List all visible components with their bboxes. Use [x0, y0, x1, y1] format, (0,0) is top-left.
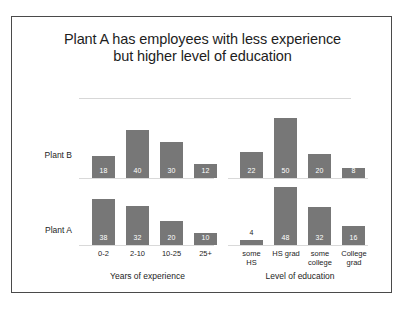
bar-plant-b-edu-college-grad: 8: [342, 168, 365, 178]
tick-label-edu-3: College grad: [336, 249, 372, 267]
tick-label-line-1: College: [341, 249, 366, 258]
row-label-plant-a: Plant A: [20, 225, 72, 235]
tick-label-edu-1: HS grad: [266, 249, 306, 258]
bar-value: 48: [274, 234, 297, 242]
tick-label-line-2: college: [308, 258, 332, 267]
bar-plant-a-exp-10-25: 20: [160, 221, 183, 245]
tick-label-exp-2: 10-25: [154, 249, 189, 258]
bar-value: 32: [126, 234, 149, 242]
bar-value: 8: [342, 167, 365, 175]
bar-plant-b-exp-0-2: 18: [92, 156, 115, 178]
row-label-plant-b: Plant B: [20, 150, 72, 160]
tick-label-line-1: some: [242, 249, 260, 258]
tick-label-line-1: 0-2: [98, 249, 109, 258]
bar-plant-b-edu-hs-grad: 50: [274, 118, 297, 178]
bar-value: 30: [160, 167, 183, 175]
bar-plant-a-edu-some-hs: 4: [240, 240, 263, 245]
bar-value: 20: [160, 234, 183, 242]
axis-title-experience: Years of experience: [70, 271, 225, 281]
axis-title-education: Level of education: [225, 271, 375, 281]
tick-label-line-1: some: [311, 249, 329, 258]
bar-value: 18: [92, 167, 115, 175]
tick-label-line-1: 2-10: [130, 249, 145, 258]
bar-plant-a-edu-some-college: 32: [308, 207, 331, 245]
bar-value: 22: [240, 167, 263, 175]
bar-value: 32: [308, 234, 331, 242]
tick-label-line-2: grad: [346, 258, 361, 267]
bar-plant-a-edu-hs-grad: 48: [274, 187, 297, 245]
bar-value: 16: [342, 234, 365, 242]
baseline-plant-b-education: [228, 178, 368, 179]
bar-plant-a-exp-25plus: 10: [194, 233, 217, 245]
baseline-plant-a-education: [228, 245, 368, 246]
bar-value: 38: [92, 234, 115, 242]
tick-label-line-1: HS grad: [272, 249, 300, 258]
bar-plant-b-edu-some-college: 20: [308, 154, 331, 178]
tick-label-line-1: 25+: [199, 249, 212, 258]
tick-label-edu-2: some college: [302, 249, 338, 267]
tick-label-line-1: 10-25: [162, 249, 181, 258]
bar-plant-b-exp-2-10: 40: [126, 130, 149, 178]
tick-label-line-2: HS: [246, 258, 256, 267]
bar-value: 50: [274, 167, 297, 175]
bar-plant-b-edu-some-hs: 22: [240, 152, 263, 178]
bar-value: 40: [126, 167, 149, 175]
tick-label-exp-1: 2-10: [120, 249, 155, 258]
tick-label-exp-3: 25+: [188, 249, 223, 258]
tick-label-exp-0: 0-2: [86, 249, 121, 258]
bar-plant-b-exp-25plus: 12: [194, 164, 217, 178]
bar-plant-b-exp-10-25: 30: [160, 142, 183, 178]
bar-plant-a-exp-2-10: 32: [126, 206, 149, 245]
baseline-plant-a-experience: [79, 245, 214, 246]
slide-frame: Plant A has employees with less experien…: [11, 16, 392, 293]
bar-plant-a-exp-0-2: 38: [92, 199, 115, 245]
bar-value: 20: [308, 167, 331, 175]
baseline-plant-b-experience: [79, 178, 214, 179]
grouped-bar-chart: Plant B Plant A 18 40 30 12 22 50 20 8: [12, 17, 393, 294]
bar-plant-a-edu-college-grad: 16: [342, 226, 365, 245]
tick-label-edu-0: some HS: [234, 249, 269, 267]
bar-value: 4: [240, 229, 263, 237]
bar-value: 10: [194, 234, 217, 242]
bar-value: 12: [194, 167, 217, 175]
